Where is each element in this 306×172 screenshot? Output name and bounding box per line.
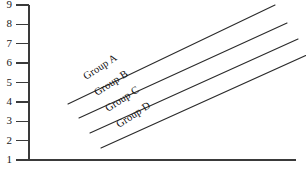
y-tick-label-9: 9 bbox=[7, 0, 13, 10]
chart-canvas: 987654321 Group AGroup BGroup CGroup D bbox=[0, 0, 306, 172]
series-lines bbox=[68, 5, 306, 148]
y-axis-ticks bbox=[16, 5, 29, 160]
y-tick-label-2: 2 bbox=[7, 134, 13, 146]
y-tick-label-4: 4 bbox=[7, 95, 13, 107]
y-tick-label-8: 8 bbox=[7, 17, 13, 29]
y-tick-label-1: 1 bbox=[7, 153, 13, 165]
y-tick-label-6: 6 bbox=[7, 56, 13, 68]
line-chart: 987654321 Group AGroup BGroup CGroup D bbox=[0, 0, 306, 172]
y-tick-label-3: 3 bbox=[7, 114, 13, 126]
series-line-group-d bbox=[101, 54, 306, 148]
series-labels: Group AGroup BGroup CGroup D bbox=[81, 52, 152, 130]
y-tick-label-7: 7 bbox=[7, 37, 13, 49]
y-tick-label-5: 5 bbox=[7, 76, 13, 88]
y-axis-tick-labels: 987654321 bbox=[7, 0, 13, 165]
